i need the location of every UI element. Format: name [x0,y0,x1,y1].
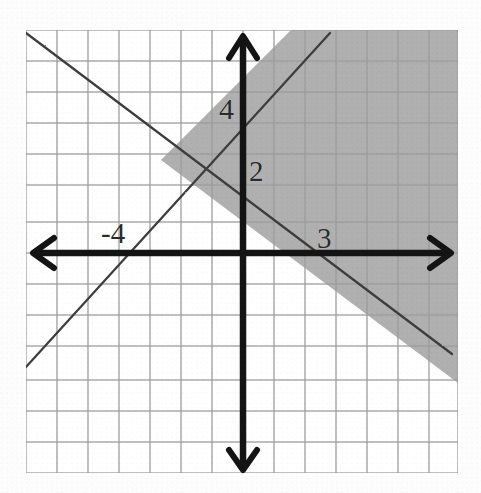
y-axis-tick-label-4: 4 [219,94,234,124]
y-axis-tick-label-2: 2 [249,157,264,186]
x-axis-tick-label-neg-4: -4 [101,219,125,248]
graph-figure: 4 2 -4 3 [0,0,481,493]
x-axis-tick-label-3: 3 [317,224,332,253]
coordinate-plane [0,0,481,493]
